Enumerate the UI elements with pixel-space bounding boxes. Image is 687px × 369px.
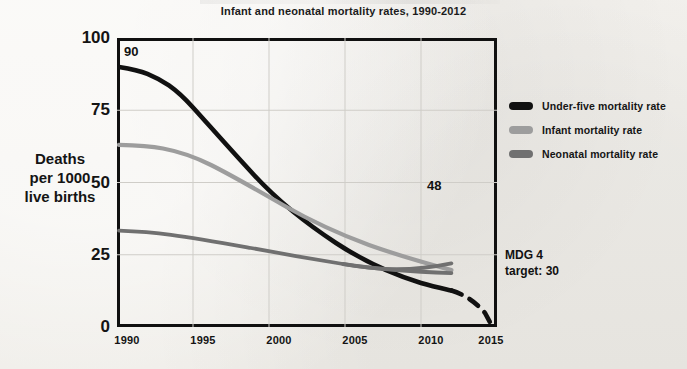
legend-item-infant-mortality-rate: Infant mortality rate <box>509 124 685 136</box>
x-tick-2015: 2015 <box>478 334 503 346</box>
legend-item-under-five-mortality-rate: Under-five mortality rate <box>509 100 685 112</box>
chart-figure: Infant and neonatal mortality rates, 199… <box>0 0 687 369</box>
series-line-infant-mortality-rate <box>119 145 451 270</box>
data-label-end-value: 48 <box>427 178 441 193</box>
series-line-neonatal-mortality-rate <box>119 231 451 270</box>
data-label-start-value: 90 <box>124 44 138 59</box>
chart-legend: Under-five mortality rate Infant mortali… <box>509 100 685 172</box>
mdg-target-line-2: target: 30 <box>505 264 559 280</box>
legend-label-under-five: Under-five mortality rate <box>542 100 666 112</box>
mdg-target-annotation: MDG 4 target: 30 <box>505 248 559 279</box>
y-tick-75: 75 <box>72 100 110 120</box>
x-tick-2010: 2010 <box>418 334 443 346</box>
series-line-under-five-projection-dashed <box>451 291 491 325</box>
y-tick-25: 25 <box>72 245 110 265</box>
x-tick-1990: 1990 <box>114 334 139 346</box>
y-axis-tick-labels: 100 75 50 25 0 <box>66 0 110 369</box>
legend-label-infant: Infant mortality rate <box>542 124 642 136</box>
legend-swatch-icon-infant <box>509 126 533 134</box>
y-tick-100: 100 <box>72 28 110 48</box>
x-tick-1995: 1995 <box>190 334 215 346</box>
y-tick-0: 0 <box>72 317 110 337</box>
x-tick-2000: 2000 <box>266 334 291 346</box>
x-tick-2005: 2005 <box>342 334 367 346</box>
page-bleed-artifact <box>200 0 500 4</box>
legend-swatch-icon-neonatal <box>509 150 533 158</box>
y-tick-50: 50 <box>72 173 110 193</box>
legend-swatch-icon-under-five <box>509 102 533 110</box>
mdg-target-line-1: MDG 4 <box>505 248 559 264</box>
legend-label-neonatal: Neonatal mortality rate <box>542 148 658 160</box>
legend-item-neonatal-mortality-rate: Neonatal mortality rate <box>509 148 685 160</box>
